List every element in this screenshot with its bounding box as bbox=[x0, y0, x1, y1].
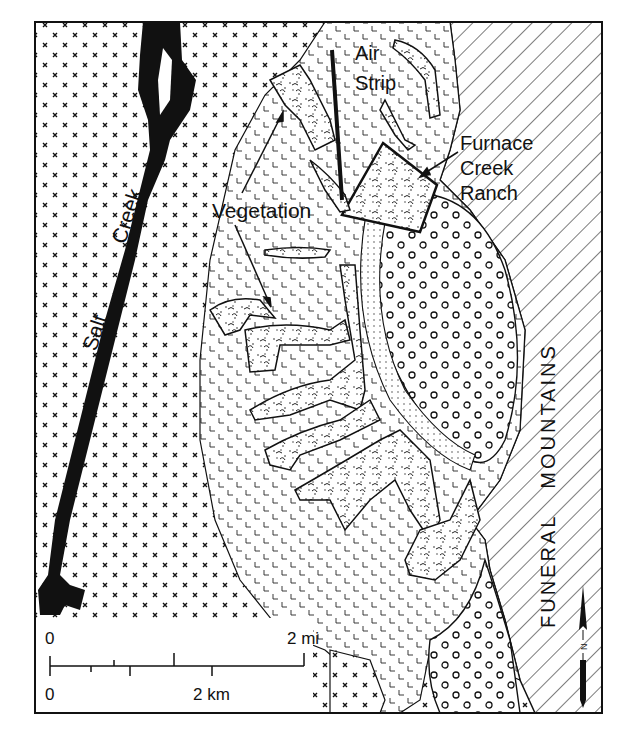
scale-mi-start: 0 bbox=[45, 629, 54, 648]
air-strip-label-strip: Strip bbox=[355, 72, 396, 94]
scale-mi-end: 2 mi bbox=[287, 629, 319, 648]
scale-km-end: 2 km bbox=[193, 685, 230, 704]
creek-label: Creek bbox=[460, 157, 514, 179]
scale-km-start: 0 bbox=[45, 685, 54, 704]
geologic-map: Salt Creek Air Strip Vegetation Furnace … bbox=[0, 0, 623, 729]
air-strip-label-air: Air bbox=[355, 42, 380, 64]
ranch-label: Ranch bbox=[460, 182, 518, 204]
funeral-mountains-label: FUNERAL MOUNTAINS bbox=[537, 343, 559, 628]
vegetation-label: Vegetation bbox=[212, 199, 311, 222]
north-label: N bbox=[579, 644, 589, 651]
furnace-label: Furnace bbox=[460, 132, 533, 154]
